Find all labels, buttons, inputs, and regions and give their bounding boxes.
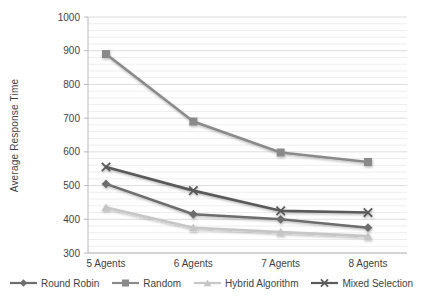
response-time-line-chart: Average Response Time 100090080070060050… (0, 0, 423, 306)
square-marker-icon (112, 277, 139, 289)
legend-item-random: Random (112, 277, 181, 289)
y-tick-label: 500 (63, 180, 80, 191)
x-tick-label: 7 Agents (261, 258, 300, 269)
series-hybrid-algorithm (101, 203, 372, 239)
legend-item-mixed-selection: Mixed Selection (311, 277, 413, 289)
y-tick-labels: 1000900800700600500400300 (58, 12, 81, 259)
diamond-marker-icon (10, 277, 37, 289)
series-random (102, 50, 372, 166)
y-tick-label: 1000 (58, 12, 81, 23)
x-tick-label: 6 Agents (174, 258, 213, 269)
chart-legend: Round RobinRandomHybrid AlgorithmMixed S… (0, 277, 423, 289)
y-tick-label: 300 (63, 248, 80, 259)
x-marker-icon (311, 277, 338, 289)
y-tick-label: 700 (63, 113, 80, 124)
series-mixed-selection (102, 163, 372, 217)
triangle-marker-icon (194, 277, 221, 289)
y-tick-label: 800 (63, 79, 80, 90)
y-tick-label: 400 (63, 214, 80, 225)
legend-label: Hybrid Algorithm (225, 278, 298, 289)
y-tick-label: 900 (63, 45, 80, 56)
x-tick-labels: 5 Agents6 Agents7 Agents8 Agents (87, 258, 388, 269)
legend-label: Random (143, 278, 181, 289)
legend-item-round-robin: Round Robin (10, 277, 99, 289)
x-tick-label: 5 Agents (87, 258, 126, 269)
y-tick-label: 600 (63, 146, 80, 157)
plot-area: 10009008007006005004003005 Agents6 Agent… (0, 0, 423, 272)
legend-item-hybrid-algorithm: Hybrid Algorithm (194, 277, 298, 289)
legend-label: Round Robin (41, 278, 99, 289)
legend-label: Mixed Selection (342, 278, 413, 289)
y-axis-title: Average Response Time (9, 21, 22, 251)
x-tick-label: 8 Agents (349, 258, 388, 269)
